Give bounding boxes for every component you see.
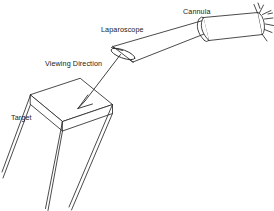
figure-canvas: Cannula Laparoscope Viewing Direction Ta… [0,0,274,211]
flange-spike-1 [254,5,258,14]
flange-spike-6 [265,30,273,33]
target-edge-long-center-lower [48,131,63,211]
label-viewing-direction: Viewing Direction [45,60,102,67]
cannula-tube [197,13,262,42]
flange-spike-7 [262,34,267,41]
target-box [2,79,113,211]
target-edge-long-right-lower [72,114,113,211]
flange-spike-8 [258,3,260,9]
target-edge-long-left [2,95,31,172]
flange-spike-4 [265,18,274,19]
target-edge-long-center [46,122,63,209]
flange-spike-9 [268,13,273,14]
label-cannula: Cannula [183,8,210,15]
flange-spike-5 [266,24,274,26]
cannula-body [204,13,263,41]
label-laparoscope: Laparoscope [101,26,144,33]
label-target: Target [11,114,32,121]
cannula-hub-bottom [204,40,209,41]
